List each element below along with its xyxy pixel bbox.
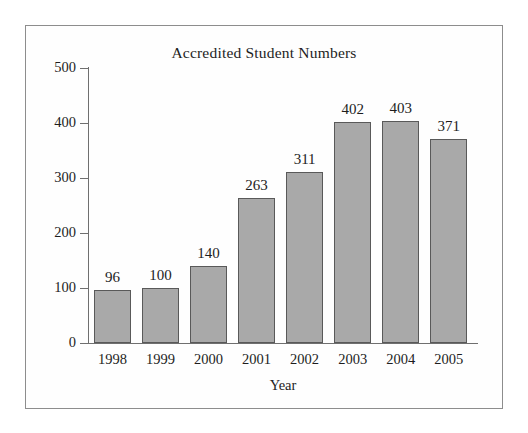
bar[interactable]	[334, 122, 371, 343]
chart-figure: Accredited Student Numbers 9610014026331…	[0, 0, 528, 433]
bar[interactable]	[430, 139, 467, 343]
bar[interactable]	[190, 266, 227, 343]
bar-value-label: 402	[341, 102, 364, 117]
y-axis-tick-label: 400	[34, 115, 76, 130]
bar-group: 311	[286, 68, 323, 343]
bar-value-label: 140	[197, 246, 220, 261]
bar-value-label: 96	[105, 270, 120, 285]
bar-value-label: 403	[389, 101, 412, 116]
bar-value-label: 263	[245, 178, 268, 193]
bar-group: 403	[382, 68, 419, 343]
x-axis-title: Year	[88, 377, 478, 394]
y-axis-tick	[80, 233, 89, 234]
bar-group: 140	[190, 68, 227, 343]
bar-group: 96	[94, 68, 131, 343]
bar[interactable]	[94, 290, 131, 343]
bar-value-label: 311	[294, 152, 316, 167]
chart-title: Accredited Student Numbers	[0, 44, 528, 62]
bar-group: 263	[238, 68, 275, 343]
bar[interactable]	[382, 121, 419, 343]
bar-group: 100	[142, 68, 179, 343]
bar-value-label: 371	[437, 119, 460, 134]
y-axis-tick	[80, 68, 89, 69]
bar-group: 371	[430, 68, 467, 343]
bar[interactable]	[142, 288, 179, 343]
x-axis-line	[88, 343, 478, 344]
bar[interactable]	[286, 172, 323, 343]
plot-area: 96100140263311402403371	[88, 68, 478, 343]
x-axis-tick-label: 2005	[421, 352, 477, 367]
bar[interactable]	[238, 198, 275, 343]
bar-group: 402	[334, 68, 371, 343]
y-axis-tick-label: 200	[34, 225, 76, 240]
y-axis-tick	[80, 288, 89, 289]
y-axis-tick	[80, 343, 89, 344]
y-axis-tick-label: 0	[34, 335, 76, 350]
y-axis-tick-label: 500	[34, 60, 76, 75]
y-axis-tick-label: 300	[34, 170, 76, 185]
y-axis-tick	[80, 123, 89, 124]
y-axis-tick	[80, 178, 89, 179]
bar-value-label: 100	[149, 268, 172, 283]
y-axis-tick-label: 100	[34, 280, 76, 295]
